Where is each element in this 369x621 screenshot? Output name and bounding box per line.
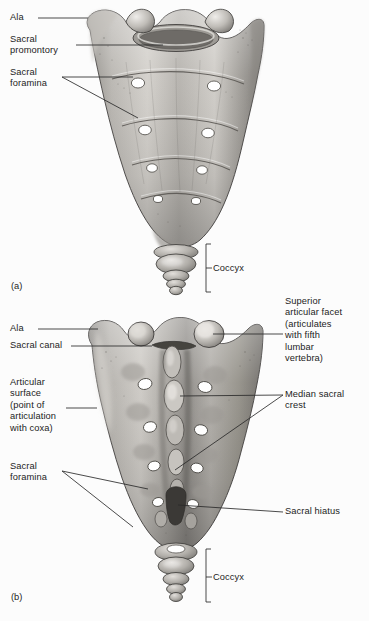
panel-letter-panel-b: (b) bbox=[11, 592, 22, 602]
bracket-panel-b-coccyx bbox=[206, 549, 211, 602]
label-panel-b-sacral-hiatus: Sacral hiatus bbox=[285, 506, 340, 517]
label-panel-a-sacral-promontory: Sacral promontory bbox=[10, 34, 58, 57]
panel-b-bone bbox=[89, 317, 263, 601]
sacral-promontory-surface bbox=[139, 30, 213, 49]
label-panel-a-sacral-foramina: Sacral foramina bbox=[10, 67, 47, 90]
label-panel-b-sacral-foramina: Sacral foramina bbox=[10, 461, 47, 484]
right-sacral-cornu bbox=[185, 513, 197, 529]
label-panel-b-superior-articular-facet: Superior articular facet (articulates wi… bbox=[285, 296, 342, 364]
label-panel-a-coccyx: Coccyx bbox=[213, 263, 244, 274]
coccyx-posterior bbox=[155, 543, 197, 602]
left-sacral-cornu bbox=[155, 511, 167, 527]
anatomy-figure: (a)AlaSacral promontorySacral foraminaCo… bbox=[0, 0, 369, 621]
label-panel-b-coccyx: Coccyx bbox=[213, 572, 244, 583]
label-panel-b-sacral-canal: Sacral canal bbox=[10, 340, 62, 351]
coccyx-canal-opening bbox=[167, 545, 185, 553]
panel-letter-panel-a: (a) bbox=[11, 281, 22, 291]
label-panel-b-ala: Ala bbox=[10, 323, 24, 334]
coccyx-anterior bbox=[154, 245, 198, 295]
label-panel-b-articular-surface: Articular surface (point of articulation… bbox=[10, 377, 56, 434]
panel-a-bone bbox=[87, 9, 264, 294]
label-panel-b-median-sacral-crest: Median sacral crest bbox=[285, 389, 344, 412]
label-panel-a-ala: Ala bbox=[10, 12, 24, 23]
